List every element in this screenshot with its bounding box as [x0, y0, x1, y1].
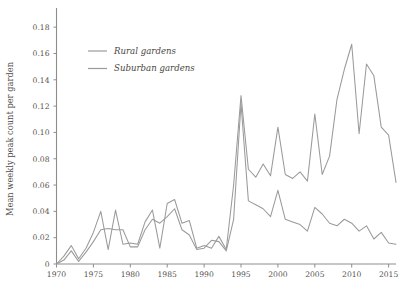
legend-label: Rural gardens [113, 46, 177, 56]
chart-container: 00.020.040.060.080.100.120.140.160.18 19… [0, 0, 401, 289]
x-tick-label: 2010 [342, 270, 361, 279]
x-tick-label: 1990 [194, 270, 213, 279]
y-tick-label: 0.18 [33, 23, 50, 32]
x-tick-label: 1995 [231, 270, 250, 279]
y-axis-group: 00.020.040.060.080.100.120.140.160.18 [33, 8, 57, 269]
y-axis-tick-labels: 00.020.040.060.080.100.120.140.160.18 [33, 23, 50, 269]
data-series-group [57, 44, 397, 264]
y-tick-label: 0.04 [33, 207, 50, 216]
x-tick-label: 2000 [268, 270, 287, 279]
x-tick-label: 2015 [379, 270, 398, 279]
x-tick-label: 1985 [158, 270, 177, 279]
x-axis-tick-labels: 1970197519801985199019952000200520102015 [47, 270, 399, 279]
y-tick-label: 0.10 [33, 128, 50, 137]
x-tick-label: 1970 [47, 270, 66, 279]
x-tick-label: 1980 [121, 270, 140, 279]
y-tick-label: 0 [45, 260, 50, 269]
y-tick-label: 0.08 [33, 155, 50, 164]
x-tick-label: 1975 [84, 270, 103, 279]
x-tick-label: 2005 [305, 270, 324, 279]
x-axis-group: 1970197519801985199019952000200520102015 [47, 264, 399, 279]
y-tick-label: 0.14 [33, 76, 50, 85]
y-tick-label: 0.02 [33, 233, 50, 242]
series-line-rural-gardens [57, 44, 397, 264]
line-chart: 00.020.040.060.080.100.120.140.160.18 19… [0, 0, 401, 289]
y-tick-label: 0.16 [33, 49, 50, 58]
legend-label: Suburban gardens [114, 63, 195, 73]
y-tick-label: 0.12 [33, 102, 50, 111]
y-tick-label: 0.06 [33, 181, 50, 190]
chart-legend: Rural gardensSuburban gardens [88, 46, 195, 74]
series-line-suburban-gardens [57, 103, 397, 264]
y-axis-title: Mean weekly peak count per garden [5, 61, 15, 216]
